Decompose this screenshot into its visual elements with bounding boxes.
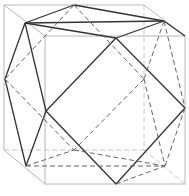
cube-cuboctahedron-diagram bbox=[0, 0, 189, 196]
cube-frame bbox=[4, 5, 185, 184]
hidden-edges bbox=[5, 5, 185, 184]
visible-edges bbox=[5, 5, 185, 184]
